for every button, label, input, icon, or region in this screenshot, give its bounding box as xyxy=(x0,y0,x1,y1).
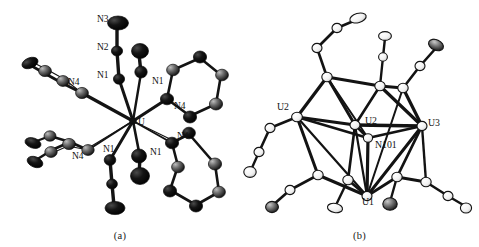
atom-label-n3: N3 xyxy=(97,14,109,24)
panel-b-structure: U2 U2 U3 N101 U1 xyxy=(240,0,479,247)
atom-label-n1-top: N1 xyxy=(97,70,109,80)
panel-a-structure: N3 N2 N1 N4 N1 N4 U N4 N4 N1 N1 xyxy=(0,0,240,247)
panel-b-caption: (b) xyxy=(240,230,479,241)
atom-label-n1-upper-right: N1 xyxy=(152,76,164,86)
atom-label-n1-lower-center: N1 xyxy=(150,147,162,157)
panel-a-caption: (a) xyxy=(0,230,240,241)
atom-label-u2-center: U2 xyxy=(365,115,377,126)
atom-label-u1: U1 xyxy=(362,196,374,207)
atom-label-n2: N2 xyxy=(97,42,109,52)
panel-b-ellipsoids xyxy=(244,11,472,214)
panel-a: N3 N2 N1 N4 N1 N4 U N4 N4 N1 N1 (a) xyxy=(0,0,240,247)
atom-label-u2-left: U2 xyxy=(277,101,289,112)
atom-label-n4-lower-right: N4 xyxy=(177,131,189,141)
atom-label-u-center: U xyxy=(138,117,145,127)
ortep-figure: N3 N2 N1 N4 N1 N4 U N4 N4 N1 N1 (a) xyxy=(0,0,479,247)
atom-label-n101: N101 xyxy=(375,139,397,150)
atom-label-u3: U3 xyxy=(428,117,440,128)
atom-label-n1-lower-left: N1 xyxy=(103,144,115,154)
panel-b: U2 U2 U3 N101 U1 (b) xyxy=(240,0,479,247)
atom-label-n4-upper-right: N4 xyxy=(174,101,186,111)
atom-label-n4-lower-left: N4 xyxy=(72,151,84,161)
atom-label-n4-upper-left: N4 xyxy=(68,77,80,87)
